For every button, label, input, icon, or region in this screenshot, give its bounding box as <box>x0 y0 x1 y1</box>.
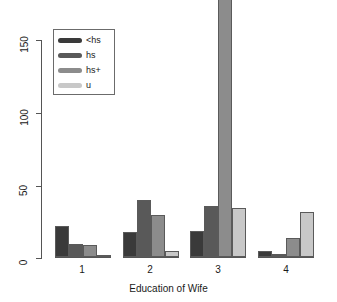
bar-4-u <box>300 212 314 257</box>
legend-item-hs: hs <box>58 49 114 62</box>
legend-label-u: u <box>86 79 91 92</box>
y-tick-50 <box>36 186 41 187</box>
bar-1-<hs <box>55 226 69 257</box>
bar-3-u <box>232 208 246 257</box>
bar-1-hs <box>69 244 83 257</box>
y-axis-line <box>41 40 42 259</box>
y-tick-label-50: 50 <box>14 180 34 192</box>
legend-label-hs-plus: hs+ <box>86 64 101 77</box>
bar-2-hs <box>137 200 151 257</box>
x-tick-label-4: 4 <box>271 264 301 275</box>
bar-1-u <box>97 255 111 257</box>
bar-2-<hs <box>123 232 137 257</box>
bar-chart: 150 100 50 0 1 2 3 4 Education of Wife <… <box>0 0 337 302</box>
legend-label-lt-hs: <hs <box>86 34 101 47</box>
y-tick-label-0-text: 0 <box>19 260 30 266</box>
y-tick-150 <box>36 40 41 41</box>
y-tick-label-150-text: 150 <box>19 36 30 53</box>
legend-item-lt-hs: <hs <box>58 34 114 47</box>
group-baseline-3 <box>190 257 246 258</box>
bar-4-hs+ <box>286 238 300 257</box>
legend-item-hs-plus: hs+ <box>58 64 114 77</box>
y-tick-label-150: 150 <box>14 34 34 46</box>
y-tick-label-100-text: 100 <box>19 109 30 126</box>
legend-swatch-lt-hs <box>58 38 82 43</box>
legend-swatch-u <box>58 83 82 88</box>
bar-4-<hs <box>258 251 272 257</box>
group-baseline-1 <box>55 257 111 258</box>
legend-item-u: u <box>58 79 114 92</box>
bar-2-hs+ <box>151 215 165 257</box>
x-tick-label-3: 3 <box>203 264 233 275</box>
y-tick-100 <box>36 113 41 114</box>
bar-2-u <box>165 251 179 257</box>
bar-3-hs+ <box>218 0 232 257</box>
legend-swatch-hs <box>58 53 82 58</box>
y-tick-label-100: 100 <box>14 107 34 119</box>
legend-label-hs: hs <box>86 49 96 62</box>
bar-3-<hs <box>190 231 204 257</box>
group-baseline-4 <box>258 257 314 258</box>
bar-3-hs <box>204 206 218 257</box>
group-baseline-2 <box>123 257 179 258</box>
bar-1-hs+ <box>83 245 97 257</box>
y-tick-label-0: 0 <box>14 252 34 264</box>
y-tick-label-50-text: 50 <box>19 185 30 196</box>
x-tick-label-1: 1 <box>67 264 97 275</box>
legend-swatch-hs-plus <box>58 68 82 73</box>
legend: <hs hs hs+ u <box>53 29 115 95</box>
x-tick-label-2: 2 <box>135 264 165 275</box>
x-axis-title: Education of Wife <box>0 283 337 294</box>
bar-4-hs <box>272 254 286 257</box>
y-tick-0 <box>36 258 41 259</box>
